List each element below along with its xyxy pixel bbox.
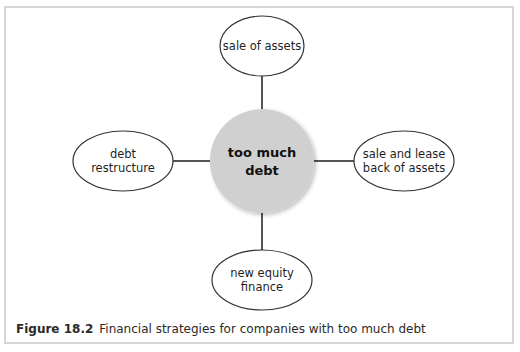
hub-label-line-2: debt [245,163,279,178]
node-left-label-line-2: restructure [91,161,155,175]
figure-caption-text: Financial strategies for companies with … [99,322,426,336]
diagram: too much debt sale of assets debt restru… [0,0,520,352]
node-sale-of-assets: sale of assets [220,16,304,76]
node-right-label-line-1: sale and lease [363,147,446,161]
node-bottom-label-line-2: finance [241,280,283,294]
node-right-label-line-2: back of assets [363,161,445,175]
figure-caption: Figure 18.2Financial strategies for comp… [16,322,426,336]
node-new-equity-finance: new equity finance [212,250,312,310]
node-debt-restructure: debt restructure [73,131,173,191]
node-left-label-line-1: debt [110,147,137,161]
node-top-label: sale of assets [223,39,301,53]
node-bottom-label-line-1: new equity [230,266,294,280]
figure-label: Figure 18.2 [16,322,93,336]
hub-node: too much debt [210,109,314,213]
node-sale-and-lease-back: sale and lease back of assets [354,131,454,191]
hub-label-line-1: too much [228,145,296,160]
